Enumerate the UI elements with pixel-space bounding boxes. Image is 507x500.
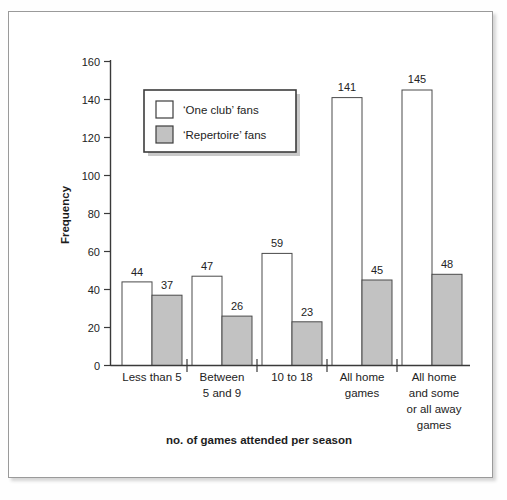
legend-label-one-club: ‘One club’ fans (183, 104, 259, 116)
y-tick-label-40: 40 (88, 284, 100, 296)
bar-group-all-home-and-away-games: 145 48 (402, 73, 462, 366)
y-tick-label-140: 140 (82, 94, 100, 106)
y-tick-label-160: 160 (82, 56, 100, 68)
bar-repertoire-0 (152, 295, 182, 365)
bar-one-club-1 (192, 276, 222, 365)
x-category-label-3-line-1: games (345, 387, 380, 399)
x-category-label-2-line-0: 10 to 18 (271, 371, 313, 383)
legend-swatch-one-club (156, 101, 173, 118)
value-label-repertoire-4: 48 (441, 258, 453, 270)
x-category-label-3-line-0: All home (340, 371, 385, 383)
bar-group-less-than-5: 44 37 (122, 266, 182, 366)
value-label-repertoire-0: 37 (161, 279, 173, 291)
value-label-one-club-0: 44 (131, 266, 143, 278)
value-label-repertoire-2: 23 (301, 306, 313, 318)
y-tick-label-100: 100 (82, 170, 100, 182)
y-tick-label-0: 0 (94, 360, 100, 372)
bar-chart: 160 140 120 100 80 60 40 20 0 Frequency … (0, 0, 507, 500)
x-axis-title: no. of games attended per season (166, 434, 352, 446)
bar-one-club-2 (262, 253, 292, 365)
y-tick-label-80: 80 (88, 208, 100, 220)
x-category-label-4-line-1: and some (409, 387, 460, 399)
bar-repertoire-3 (362, 280, 392, 366)
legend-label-repertoire: ‘Repertoire’ fans (183, 129, 267, 141)
scanned-page: 160 140 120 100 80 60 40 20 0 Frequency … (0, 0, 507, 500)
legend-swatch-repertoire (156, 126, 173, 143)
bar-repertoire-4 (432, 274, 462, 365)
value-label-repertoire-3: 45 (371, 264, 383, 276)
x-category-label-1-line-0: Between (200, 371, 245, 383)
bar-group-between-5-and-9: 47 26 (192, 260, 252, 366)
x-axis: Less than 5 Between 5 and 9 10 to 18 All… (111, 359, 471, 446)
value-label-repertoire-1: 26 (231, 300, 243, 312)
bar-group-10-to-18: 59 23 (262, 237, 322, 366)
value-label-one-club-3: 141 (338, 81, 356, 93)
x-category-label-1-line-1: 5 and 9 (203, 387, 241, 399)
bar-one-club-4 (402, 90, 432, 366)
x-category-label-4-line-3: games (417, 419, 452, 431)
value-label-one-club-1: 47 (201, 260, 213, 272)
value-label-one-club-4: 145 (408, 73, 426, 85)
value-label-one-club-2: 59 (271, 237, 283, 249)
bar-repertoire-2 (292, 322, 322, 366)
x-category-label-0-line-0: Less than 5 (122, 371, 181, 383)
y-tick-label-120: 120 (82, 132, 100, 144)
x-category-label-4-line-0: All home (412, 371, 457, 383)
x-category-label-4-line-2: or all away (407, 403, 462, 415)
y-axis: 160 140 120 100 80 60 40 20 0 Frequency (59, 56, 111, 372)
bar-group-all-home-games: 141 45 (332, 81, 392, 366)
legend: ‘One club’ fans ‘Repertoire’ fans (144, 90, 300, 156)
bar-one-club-3 (332, 98, 362, 366)
y-tick-label-60: 60 (88, 246, 100, 258)
bar-repertoire-1 (222, 316, 252, 365)
bar-one-club-0 (122, 282, 152, 366)
y-tick-label-20: 20 (88, 322, 100, 334)
chart-svg: 160 140 120 100 80 60 40 20 0 Frequency … (0, 0, 507, 500)
y-axis-title: Frequency (59, 185, 71, 244)
